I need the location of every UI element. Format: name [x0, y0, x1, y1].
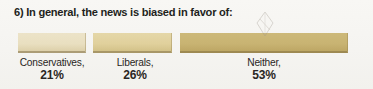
survey-question-chart: 6) In general, the news is biased in fav… [0, 0, 373, 89]
bar-label-liberals: Liberals, [98, 57, 172, 68]
label-group-liberals: Liberals, 26% [98, 57, 172, 82]
label-group-neither: Neither, 53% [214, 57, 314, 82]
bar-conservatives [18, 33, 86, 53]
bar-value-liberals: 26% [98, 69, 172, 82]
label-group-conservatives: Conservatives, 21% [4, 57, 100, 82]
bar-value-neither: 53% [214, 69, 314, 82]
bar-neither [180, 33, 348, 53]
page-title: 6) In general, the news is biased in fav… [14, 6, 364, 18]
bar-liberals [93, 33, 172, 53]
bar-label-neither: Neither, [214, 57, 314, 68]
bar-value-conservatives: 21% [4, 69, 100, 82]
bar-label-conservatives: Conservatives, [4, 57, 100, 68]
